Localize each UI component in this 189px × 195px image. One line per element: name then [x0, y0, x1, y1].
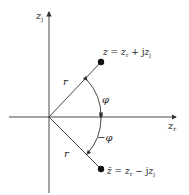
vector-z: [49, 62, 101, 117]
vector-z-conjugate: [49, 117, 101, 169]
point-z-conjugate-label: z̄ = zr − jzj: [106, 166, 155, 178]
complex-conjugate-diagram: zj zr z = zr + jzj z̄ = zr − jzj r r φ −…: [0, 0, 189, 195]
point-z-label: z = zr + jzj: [102, 47, 151, 59]
radius-label-upper: r: [63, 76, 69, 87]
radius-label-lower: r: [64, 148, 70, 159]
angle-arc-phi: [87, 80, 101, 116]
imaginary-axis-label: zj: [35, 10, 43, 23]
real-axis-label: zr: [167, 120, 176, 132]
point-z: [98, 59, 104, 65]
angle-label-neg-phi: −φ: [97, 132, 112, 143]
angle-label-phi: φ: [102, 94, 109, 105]
point-z-conjugate: [98, 166, 104, 172]
